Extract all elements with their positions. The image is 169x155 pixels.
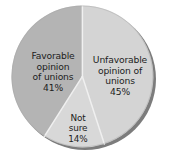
pie-face [11,5,153,147]
pie-chart-graphic [0,0,169,155]
pie-chart: Favorable opinion of unions 41% Unfavora… [0,0,169,155]
